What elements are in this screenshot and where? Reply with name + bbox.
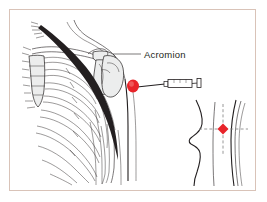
- lateral-body-landmark-inset: [189, 100, 248, 186]
- arm-profile-inner: [235, 101, 241, 186]
- medical-illustration: Acromion: [0, 0, 267, 202]
- deltoid-muscle-band: [31, 22, 118, 184]
- acromion-label: Acromion: [144, 49, 186, 60]
- acromion-callout: Acromion: [113, 49, 186, 60]
- anterior-shoulder-skeletal-view: [22, 20, 136, 185]
- torso-profile: [189, 100, 202, 186]
- syringe: [137, 79, 201, 88]
- syringe-flange: [197, 79, 201, 88]
- syringe-hub: [164, 82, 168, 87]
- inset-injection-marker: [218, 124, 229, 135]
- costal-cartilage: [66, 68, 79, 156]
- figure-root: Acromion: [0, 0, 267, 202]
- injection-site-marker: [127, 80, 139, 93]
- midline-contour: [213, 102, 215, 186]
- arm-outer-contour: [125, 79, 136, 181]
- sternum: [29, 55, 45, 107]
- humerus-head: [102, 56, 124, 98]
- syringe-needle: [137, 84, 165, 87]
- arm-profile-edge: [239, 103, 245, 186]
